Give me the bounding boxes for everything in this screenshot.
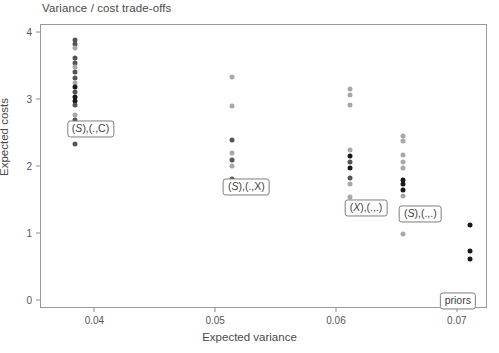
scatter-point [348,103,353,108]
label-x-dotdot: (X),(.,.) [345,200,388,217]
y-tick-label: 0 [10,294,32,305]
x-tick-label: 0.04 [74,315,114,326]
scatter-point [229,138,234,143]
scatter-point [72,69,77,74]
scatter-point [72,46,77,51]
y-axis-title: Expected costs [0,98,10,176]
x-tick-mark [335,308,336,312]
scatter-point [229,150,234,155]
scatter-point [72,141,77,146]
scatter-point [348,147,353,152]
scatter-point [467,257,472,262]
scatter-point [229,75,234,80]
scatter-point [229,104,234,109]
scatter-point [348,165,353,170]
chart-figure: Variance / cost trade-offs Expected cost… [0,0,499,353]
scatter-point [348,181,353,186]
scatter-point [467,223,472,228]
label-s-dotdot: (S),(.,.) [399,205,442,222]
label-s-x: (S),(.,X) [223,179,270,196]
scatter-point [401,193,406,198]
scatter-point [401,152,406,157]
x-axis-title: Expected variance [0,331,499,343]
y-tick-label: 4 [10,27,32,38]
x-tick-label: 0.06 [316,315,356,326]
scatter-point [348,92,353,97]
scatter-point [229,164,234,169]
scatter-point [467,248,472,253]
label-priors: priors [440,292,476,309]
scatter-point [348,159,353,164]
scatter-point [348,175,353,180]
plot-panel: (S),(.,C)(S),(.,X)(X),(.,.)(S),(.,.)prio… [40,24,487,308]
scatter-point [348,153,353,158]
x-tick-label: 0.05 [195,315,235,326]
scatter-point [401,165,406,170]
scatter-point [401,231,406,236]
y-tick-label: 3 [10,94,32,105]
x-tick-mark [94,308,95,312]
scatter-point [401,187,406,192]
label-s-c: (S),(.,C) [67,121,114,138]
scatter-point [401,138,406,143]
scatter-point [401,159,406,164]
scatter-point [72,112,77,117]
scatter-point [348,87,353,92]
y-tick-label: 1 [10,227,32,238]
chart-title: Variance / cost trade-offs [42,2,171,14]
scatter-point [401,182,406,187]
y-tick-label: 2 [10,161,32,172]
x-tick-label: 0.07 [437,315,477,326]
scatter-point [229,158,234,163]
scatter-point [72,103,77,108]
x-tick-mark [215,308,216,312]
